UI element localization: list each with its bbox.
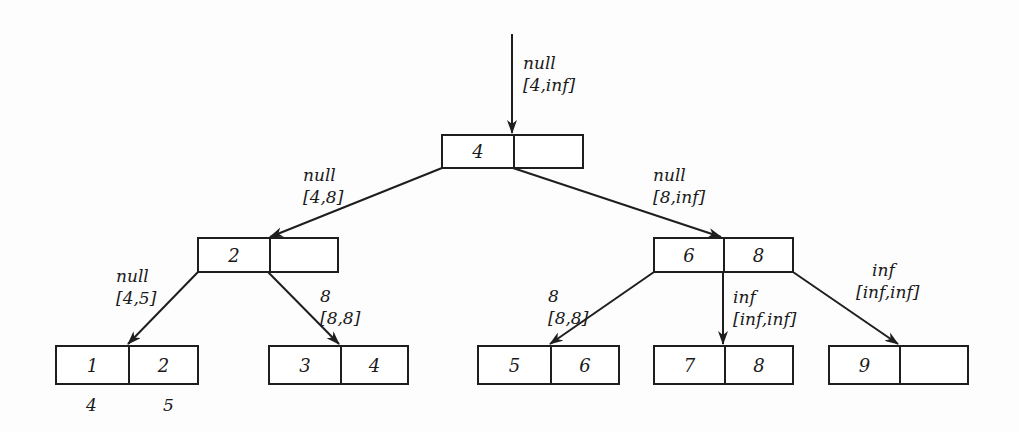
edge-value: 8 (320, 285, 360, 307)
edge-range: [8,8] (320, 307, 360, 329)
node-key (271, 239, 337, 271)
node-key (901, 347, 967, 383)
edge-label-n2-leaf34: 8 [8,8] (320, 285, 360, 329)
edge-label-into-root: null [4,inf] (523, 52, 575, 96)
node-key: 1 (57, 347, 130, 383)
node-key: 2 (130, 347, 197, 383)
node-key: 8 (726, 347, 792, 383)
edge-range: [8,inf] (653, 186, 705, 208)
node-6-8: 6 8 (653, 237, 794, 273)
edge-range: [inf,inf] (856, 281, 919, 303)
below-label-leaf12-right: 5 (163, 395, 174, 415)
edge-label-n68-leaf56: 8 [8,8] (548, 285, 588, 329)
node-key: 9 (830, 347, 901, 383)
node-root: 4 (441, 134, 584, 169)
edge-label-n2-leaf12: null [4,5] (116, 265, 156, 309)
edge-label-n68-leaf9: inf [inf,inf] (856, 259, 919, 303)
edge-value: null (653, 164, 705, 186)
node-key: 3 (270, 347, 342, 383)
node-key: 4 (342, 347, 407, 383)
leaf-9: 9 (828, 345, 969, 385)
edge-range: [inf,inf] (733, 308, 796, 330)
edge-root-n2 (270, 168, 442, 237)
edge-label-root-n2: null [4,8] (303, 164, 343, 208)
node-key: 7 (655, 347, 726, 383)
node-key: 2 (199, 239, 271, 271)
node-key: 6 (552, 347, 618, 383)
node-key: 5 (479, 347, 552, 383)
leaf-1-2: 1 2 (55, 345, 199, 385)
edge-value: null (303, 164, 343, 186)
below-label-leaf12-left: 4 (86, 395, 97, 415)
edge-value: 8 (548, 285, 588, 307)
node-key: 8 (725, 239, 792, 271)
edge-value: inf (733, 286, 796, 308)
edge-value: inf (856, 259, 919, 281)
edge-value: null (523, 52, 575, 74)
node-2: 2 (197, 237, 339, 273)
node-key: 6 (655, 239, 725, 271)
edge-range: [8,8] (548, 307, 588, 329)
edge-range: [4,inf] (523, 74, 575, 96)
diagram-canvas: null [4,inf] null [4,8] null [8,inf] nul… (0, 0, 1019, 432)
node-key (515, 136, 582, 167)
edge-range: [4,5] (116, 287, 156, 309)
leaf-5-6: 5 6 (477, 345, 620, 385)
edge-label-n68-leaf78: inf [inf,inf] (733, 286, 796, 330)
edge-label-root-n68: null [8,inf] (653, 164, 705, 208)
node-key: 4 (443, 136, 515, 167)
edge-range: [4,8] (303, 186, 343, 208)
leaf-7-8: 7 8 (653, 345, 794, 385)
edge-value: null (116, 265, 156, 287)
leaf-3-4: 3 4 (268, 345, 409, 385)
